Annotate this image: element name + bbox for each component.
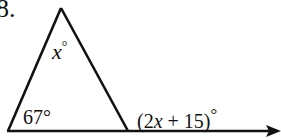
expr-open: (2 [137,110,154,132]
exterior-angle-label: (2x + 15)° [137,107,217,131]
right-side [61,8,128,131]
expr-rest: + 15) [163,110,211,132]
problem-number: 8. [0,0,16,22]
expr-variable: x [154,110,163,132]
diagram-canvas: 8. x° 67° (2x + 15)° [0,0,281,140]
apex-variable: x [52,39,62,64]
base-angle-label: 67° [23,107,51,127]
degree-symbol: ° [62,39,68,54]
apex-angle-label: x° [52,40,67,63]
expr-degree: ° [211,105,218,124]
